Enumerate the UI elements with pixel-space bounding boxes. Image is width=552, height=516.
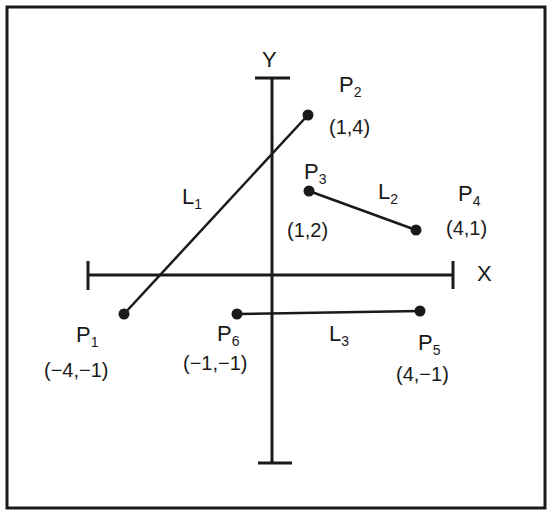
point-p6-label: P6	[217, 321, 240, 349]
point-p4-label: P4	[458, 181, 481, 209]
point-p5-coord: (4,−1)	[396, 363, 449, 385]
point-p5-label: P5	[418, 330, 441, 358]
point-p5-marker	[415, 306, 426, 317]
point-p1-coord: (−4,−1)	[44, 359, 108, 381]
point-p6-coord: (−1,−1)	[183, 352, 247, 374]
point-p2-label: P2	[339, 72, 362, 100]
point-p6-marker	[232, 309, 243, 320]
coordinate-diagram: Y X L1 L2 L3 P1 (−4,−1) P2 (1,4) P3 (1,2…	[0, 0, 552, 516]
point-p1-label: P1	[76, 322, 99, 350]
line-l3-label: L3	[329, 321, 349, 349]
y-axis	[255, 78, 292, 463]
point-p2-coord: (1,4)	[329, 116, 370, 138]
point-p1-marker	[119, 309, 130, 320]
x-axis-label: X	[477, 261, 492, 286]
point-p4-coord: (4,1)	[446, 217, 487, 239]
point-p3-label: P3	[304, 159, 327, 187]
point-p3-marker	[304, 186, 315, 197]
point-p3-coord: (1,2)	[287, 219, 328, 241]
line-l3	[237, 311, 420, 314]
point-p2-marker	[303, 110, 314, 121]
diagram-frame	[7, 7, 545, 508]
line-l1	[124, 115, 308, 314]
point-p4-marker	[411, 225, 422, 236]
line-l2-label: L2	[378, 179, 398, 207]
y-axis-label: Y	[262, 47, 277, 72]
line-l1-label: L1	[182, 184, 202, 212]
